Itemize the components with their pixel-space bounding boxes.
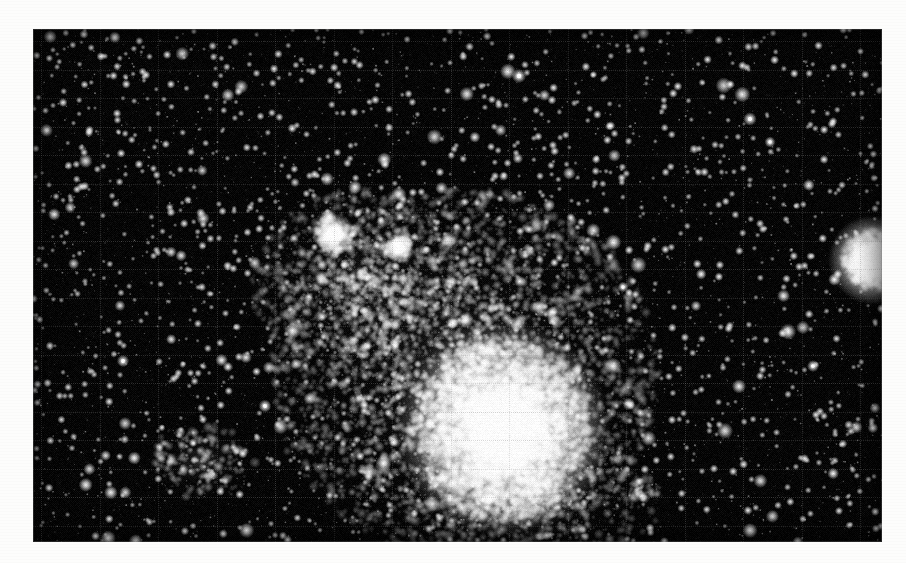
astronomical-plate-image <box>33 29 882 542</box>
plate-page <box>0 0 906 563</box>
sky-field-canvas <box>33 29 882 542</box>
